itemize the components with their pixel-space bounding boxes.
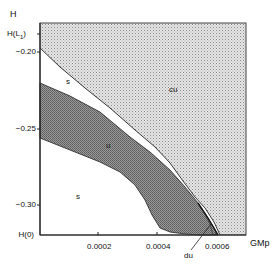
x-tick-0006: 0.0006 [205, 243, 229, 251]
x-tick-0002: 0.0002 [87, 243, 111, 251]
x-tick-0004: 0.0004 [146, 243, 170, 251]
region-label-s-lower: s [76, 193, 80, 201]
region-label-du: du [184, 252, 193, 260]
region-label-s-upper: s [66, 78, 70, 86]
y-tick-030: −0.30 [0, 201, 36, 209]
region-label-cu: cu [169, 86, 177, 94]
y-tick-025: −0.25 [0, 125, 36, 133]
region-label-u: u [106, 142, 110, 150]
y-tick-hl1: H(L1) [7, 30, 26, 41]
x-axis-label: GMp [250, 239, 270, 247]
y-axis-label: H [10, 10, 17, 18]
y-tick-020: −0.20 [0, 48, 36, 56]
y-tick-h0: H(0) [0, 231, 34, 239]
stability-diagram [0, 0, 277, 272]
